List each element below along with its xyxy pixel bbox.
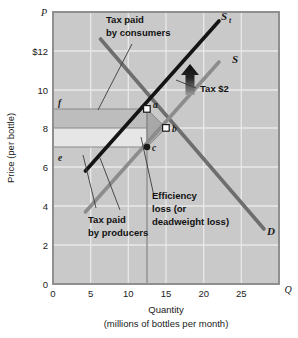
x-axis-title: Quantity	[148, 304, 184, 315]
producers-line-1: Tax paid	[88, 214, 126, 225]
curve-label-d: D	[266, 225, 275, 237]
x-tick-15: 15	[161, 288, 172, 299]
y-tick-10: 10	[37, 85, 48, 96]
x-axis-subtitle: (millions of bottles per month)	[104, 318, 229, 329]
point-marker-c	[144, 144, 151, 151]
y-tick-6: 6	[43, 162, 48, 173]
x-tick-20: 20	[198, 288, 209, 299]
chart-svg: P Q $12 10 8 6 4 2 0 0 5 10 15 20 25 S t…	[0, 0, 298, 338]
y-tick-0: 0	[43, 279, 48, 290]
point-marker-b	[163, 125, 170, 132]
y-axis-title: Price (per bottle)	[5, 113, 16, 183]
point-label-a: a	[153, 100, 158, 110]
x-tick-25: 25	[236, 288, 247, 299]
efficiency-line-2: loss (or	[152, 203, 187, 214]
y-tick-12: $12	[32, 46, 48, 57]
curve-label-st: S	[221, 10, 227, 22]
x-tick-0: 0	[50, 288, 55, 299]
consumers-line-1: Tax paid	[106, 14, 144, 25]
y-tick-2: 2	[43, 240, 48, 251]
tax-paid-by-producers-region	[53, 128, 147, 147]
y-axis-symbol: P	[40, 7, 47, 18]
producers-line-2: by producers	[88, 227, 148, 238]
y-tick-8: 8	[43, 123, 48, 134]
tax-amount-annotation: Tax $2	[200, 83, 229, 94]
point-marker-a	[144, 106, 151, 113]
x-tick-5: 5	[88, 288, 93, 299]
x-tick-10: 10	[123, 288, 134, 299]
point-label-b: b	[172, 124, 177, 134]
curve-label-s: S	[232, 53, 238, 65]
consumers-line-2: by consumers	[106, 27, 170, 38]
y-tick-4: 4	[43, 201, 48, 212]
supply-demand-tax-chart: P Q $12 10 8 6 4 2 0 0 5 10 15 20 25 S t…	[0, 0, 298, 338]
x-axis-symbol: Q	[284, 284, 292, 295]
efficiency-line-1: Efficiency	[152, 190, 198, 201]
efficiency-line-3: deadweight loss)	[152, 216, 229, 227]
